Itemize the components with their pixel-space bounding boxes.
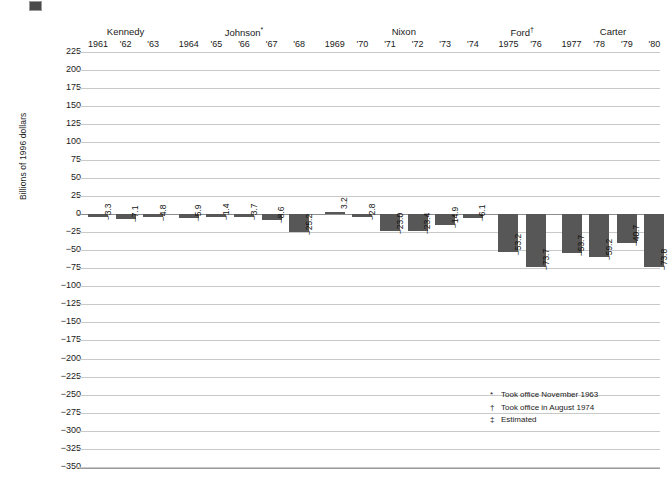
y-tick-label: −125 (45, 299, 81, 308)
footnote-row: *Took office November 1963 (490, 389, 598, 402)
y-tick-label: 75 (45, 155, 81, 164)
gridline (77, 52, 660, 53)
gridline (77, 106, 660, 107)
footnote-marker: † (490, 402, 501, 415)
bar-value-label: −73.8 (659, 249, 669, 270)
year-label: '74 (453, 39, 493, 49)
bar-value-label: −4.8 (158, 204, 168, 220)
footnote-row: ‡Estimated (490, 414, 598, 427)
corner-swatch-mark (29, 1, 42, 11)
y-tick-label: 50 (45, 173, 81, 182)
footnote-text: Took office in August 1974 (501, 403, 594, 412)
year-label: '80 (634, 39, 672, 49)
bar-value-label: −73.7 (541, 249, 551, 270)
gridline (77, 359, 660, 360)
president-label-johnson: Johnson* (184, 26, 304, 38)
y-axis-tick-labels: 2252001751501251007550250−25−50−75−100−1… (45, 0, 81, 492)
gridline (77, 160, 660, 161)
gridline (77, 449, 660, 450)
y-tick-label: 25 (45, 191, 81, 200)
y-tick-label: 150 (45, 101, 81, 110)
bar-value-label: −3.7 (249, 203, 259, 219)
y-tick-label: 0 (45, 209, 81, 218)
y-tick-label: −250 (45, 390, 81, 399)
gridline (77, 268, 660, 269)
bar-value-label: −23.4 (422, 213, 432, 234)
bar (325, 212, 345, 215)
year-label: '76 (516, 39, 556, 49)
y-tick-label: −100 (45, 281, 81, 290)
y-tick-label: 100 (45, 137, 81, 146)
y-tick-label: −150 (45, 317, 81, 326)
gridline (77, 142, 660, 143)
bar-value-label: −5.9 (193, 205, 203, 221)
bar-value-label: −7.1 (130, 206, 140, 222)
bar-value-label: −53.7 (576, 235, 586, 256)
bar-value-label: −8.6 (276, 207, 286, 223)
y-tick-label: −200 (45, 354, 81, 363)
gridline (77, 377, 660, 378)
footnote-row: †Took office in August 1974 (490, 402, 598, 415)
y-tick-label: −300 (45, 426, 81, 435)
bar-value-label: −23.0 (395, 213, 405, 234)
y-tick-label: 225 (45, 47, 81, 56)
gridline (77, 431, 660, 432)
president-label-carter: Carter (553, 26, 672, 37)
bar-value-label: −53.2 (513, 234, 523, 255)
bar-value-label: −3.3 (103, 203, 113, 219)
gridline (77, 178, 660, 179)
y-tick-label: 125 (45, 119, 81, 128)
y-axis-title: Billions of 1996 dollars (18, 113, 28, 200)
gridline (77, 304, 660, 305)
bar-value-label: −6.1 (477, 205, 487, 221)
y-tick-label: −325 (45, 444, 81, 453)
bar-value-label: −25.2 (304, 214, 314, 235)
y-tick-label: −75 (45, 263, 81, 272)
y-tick-label: −225 (45, 372, 81, 381)
gridline (77, 467, 660, 468)
y-tick-label: 175 (45, 83, 81, 92)
y-tick-label: −25 (45, 227, 81, 236)
footnote-text: Took office November 1963 (501, 390, 598, 399)
gridline (77, 286, 660, 287)
president-label-kennedy: Kennedy (66, 26, 186, 37)
y-tick-label: 200 (45, 65, 81, 74)
gridline (77, 88, 660, 89)
bar-value-label: −2.8 (367, 203, 377, 219)
bar-value-label: −14.9 (450, 207, 460, 228)
bar-value-label: −59.2 (604, 239, 614, 260)
y-tick-label: −50 (45, 245, 81, 254)
footnote-marker: * (490, 389, 501, 402)
gridline (77, 124, 660, 125)
year-label: '68 (279, 39, 319, 49)
y-tick-label: −350 (45, 462, 81, 471)
gridline (77, 196, 660, 197)
bar-value-label: −1.4 (221, 203, 231, 219)
year-label: '63 (133, 39, 173, 49)
y-tick-label: −275 (45, 408, 81, 417)
president-label-nixon: Nixon (344, 26, 464, 37)
deficit-bar-chart: Billions of 1996 dollars 225200175150125… (0, 0, 672, 492)
gridline (77, 322, 660, 323)
footnote-text: Estimated (501, 415, 537, 424)
y-tick-label: −175 (45, 335, 81, 344)
bar-value-label: 3.2 (339, 197, 349, 209)
gridline (77, 70, 660, 71)
gridline (77, 340, 660, 341)
bar-value-label: −40.7 (631, 225, 641, 246)
footnotes: *Took office November 1963†Took office i… (490, 389, 598, 427)
footnote-marker: ‡ (490, 414, 501, 427)
